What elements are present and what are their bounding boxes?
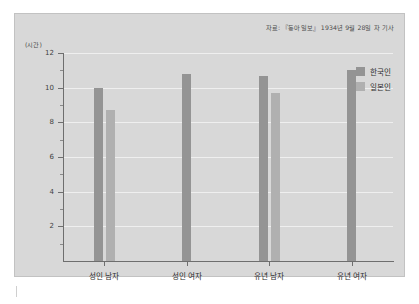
y-minor-tick-mark (60, 244, 63, 245)
y-tick-mark (58, 226, 63, 227)
y-tick-label: 2 (32, 222, 54, 230)
legend-label: 일본인 (370, 81, 391, 92)
bar (271, 93, 280, 261)
x-tick-label: 성인 여자 (172, 270, 202, 281)
y-tick-label: 12 (32, 49, 54, 57)
x-tick-mark (187, 262, 188, 266)
y-tick-mark (58, 157, 63, 158)
chart-panel: 자료: 『동아일보』 1934년 9월 28일 자 기사 (시간) 246810… (14, 13, 405, 277)
x-tick-label: 유년 여자 (337, 270, 367, 281)
x-tick-mark (269, 262, 270, 266)
legend-item: 일본인 (356, 81, 391, 92)
bar (347, 70, 356, 261)
y-axis-line (63, 53, 64, 262)
y-minor-tick-mark (60, 70, 63, 71)
y-minor-tick-mark (60, 140, 63, 141)
source-note: 자료: 『동아일보』 1934년 9월 28일 자 기사 (266, 23, 394, 32)
y-tick-mark (58, 122, 63, 123)
y-minor-tick-mark (60, 174, 63, 175)
bar (106, 110, 115, 261)
legend-swatch (356, 82, 365, 91)
y-tick-label: 8 (32, 118, 54, 126)
plot-area (63, 53, 393, 261)
legend-swatch (356, 67, 365, 76)
y-tick-mark (58, 192, 63, 193)
y-tick-mark (58, 88, 63, 89)
x-axis-line (63, 261, 394, 262)
gridline (63, 53, 393, 54)
y-tick-label: 6 (32, 153, 54, 161)
legend-item: 한국인 (356, 66, 391, 77)
bar (259, 76, 268, 261)
x-tick-label: 성인 남자 (89, 270, 119, 281)
y-minor-tick-mark (60, 209, 63, 210)
y-tick-label: 10 (32, 84, 54, 92)
bar (182, 74, 191, 261)
chart-legend: 한국인일본인 (356, 66, 391, 92)
y-tick-mark (58, 53, 63, 54)
x-tick-mark (352, 262, 353, 266)
legend-label: 한국인 (370, 66, 391, 77)
x-tick-label: 유년 남자 (254, 270, 284, 281)
y-tick-label: 4 (32, 188, 54, 196)
page-edge-mark (16, 286, 17, 297)
y-axis-unit-label: (시간) (25, 40, 42, 49)
x-tick-mark (104, 262, 105, 266)
bar (94, 88, 103, 261)
gridline (63, 88, 393, 89)
y-minor-tick-mark (60, 105, 63, 106)
chart-figure: 자료: 『동아일보』 1934년 9월 28일 자 기사 (시간) 246810… (0, 0, 419, 304)
